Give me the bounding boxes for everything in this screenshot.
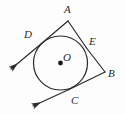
ray-through-D-arrow [11, 44, 42, 70]
point-label-O: O [63, 52, 71, 63]
point-label-B: B [108, 68, 115, 79]
point-label-C: C [71, 95, 78, 106]
segment-D-A [42, 21, 69, 44]
ray-through-C-arrow [33, 90, 69, 107]
geometry-figure: A B C D E O [0, 0, 125, 114]
segment-A-E [68, 21, 87, 48]
point-label-E: E [89, 36, 96, 47]
segment-E-B [87, 48, 106, 72]
segment-B-C [69, 72, 105, 90]
point-label-A: A [64, 4, 71, 15]
point-label-D: D [24, 29, 32, 40]
